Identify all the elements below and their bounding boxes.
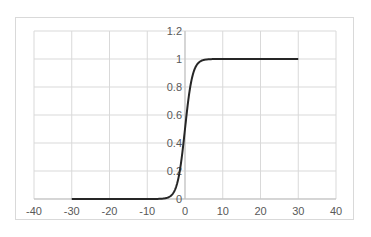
x-tick-label: -30: [64, 205, 80, 217]
y-tick-label: 1: [176, 53, 182, 65]
y-tick-label: 0.4: [167, 137, 182, 149]
y-tick-label: 0: [176, 193, 182, 205]
x-axis-tick-labels: -40-30-20-10010203040: [26, 205, 342, 217]
y-tick-label: 0.8: [167, 81, 182, 93]
y-tick-label: 1.2: [167, 25, 182, 37]
x-tick-label: 30: [292, 205, 304, 217]
x-tick-label: 10: [217, 205, 229, 217]
y-axis-tick-labels: 00.20.40.60.811.2: [167, 25, 182, 205]
sigmoid-chart: -40-30-20-10010203040 00.20.40.60.811.2: [0, 0, 371, 237]
x-tick-label: -20: [102, 205, 118, 217]
x-tick-label: 40: [330, 205, 342, 217]
y-tick-label: 0.6: [167, 109, 182, 121]
x-tick-label: 0: [182, 205, 188, 217]
x-tick-label: -10: [139, 205, 155, 217]
x-tick-label: -40: [26, 205, 42, 217]
x-tick-label: 20: [254, 205, 266, 217]
